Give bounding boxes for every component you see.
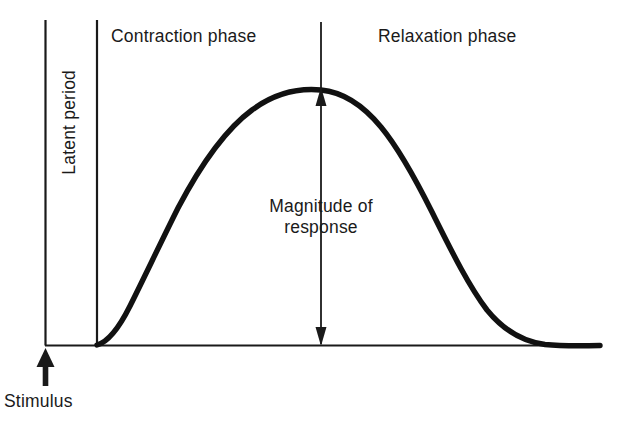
magnitude-label-line-2: response [227,217,415,238]
stimulus-arrowhead-up-icon [37,348,55,367]
twitch-response-figure: Contraction phase Relaxation phase Laten… [0,0,620,428]
stimulus-label: Stimulus [4,391,73,412]
magnitude-label-line-1: Magnitude of [269,196,373,216]
magnitude-of-response-label: Magnitude ofresponse [227,196,415,237]
contraction-phase-label: Contraction phase [111,26,256,47]
latent-period-label: Latent period [59,47,80,197]
relaxation-phase-label: Relaxation phase [378,26,516,47]
magnitude-arrowhead-down-icon [316,327,327,346]
